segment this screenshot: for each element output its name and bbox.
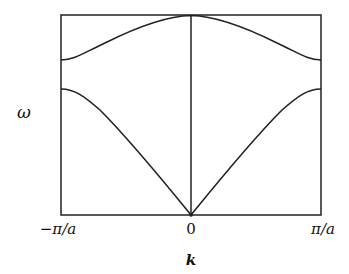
x-axis-label: k	[186, 253, 196, 268]
y-axis-label: ω	[17, 104, 31, 121]
tick-label-left: −π/a	[40, 222, 76, 237]
origin-point	[189, 213, 193, 217]
tick-label-right: π/a	[311, 222, 335, 237]
tick-label-center: 0	[186, 222, 196, 237]
